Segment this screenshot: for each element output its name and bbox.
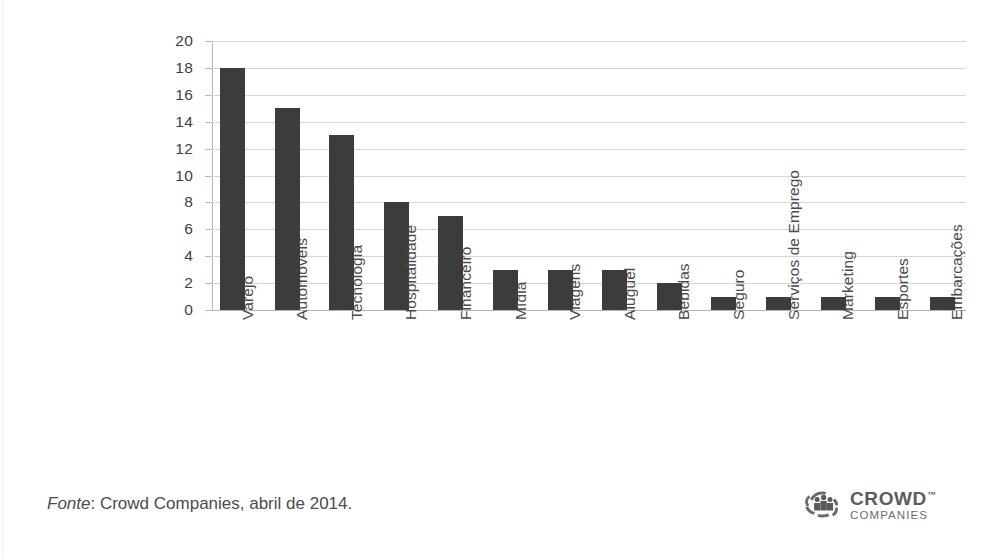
y-tick-label-4: 4: [159, 248, 193, 264]
y-tickmark-2: [205, 283, 212, 284]
y-tick-label-16: 16: [159, 87, 193, 103]
x-tick-label: Automóveis: [294, 238, 310, 320]
gridline-16: [212, 95, 966, 96]
brand-subtitle: COMPANIES: [850, 509, 936, 522]
x-tick-label: Viagens: [567, 264, 583, 320]
y-tickmark-6: [205, 229, 212, 230]
gridline-18: [212, 68, 966, 69]
bar: [220, 68, 245, 310]
y-tick-label-12: 12: [159, 141, 193, 157]
y-tick-label-14: 14: [159, 114, 193, 130]
y-tick-label-2: 2: [159, 275, 193, 291]
y-tickmark-4: [205, 256, 212, 257]
y-tick-label-18: 18: [159, 60, 193, 76]
y-tickmark-18: [205, 68, 212, 69]
gridline-20: [212, 41, 966, 42]
y-tickmark-12: [205, 149, 212, 150]
trademark-symbol: ™: [927, 490, 936, 500]
x-tick-label: Mídia: [513, 282, 529, 320]
x-tick-label: Serviços de Emprego: [786, 170, 802, 320]
gridline-14: [212, 122, 966, 123]
x-tick-label: Marketing: [840, 251, 856, 320]
crowd-companies-logo: CROWD™ COMPANIES: [803, 483, 963, 525]
crowd-swirl-icon: [803, 487, 843, 521]
y-tickmark-8: [205, 202, 212, 203]
x-tick-label: Varejo: [240, 276, 256, 320]
source-note: Fonte: Crowd Companies, abril de 2014.: [47, 494, 352, 514]
y-tick-label-10: 10: [159, 168, 193, 184]
source-text: : Crowd Companies, abril de 2014.: [90, 494, 352, 513]
y-tickmark-20: [205, 41, 212, 42]
brand-wordmark: CROWD™ COMPANIES: [850, 485, 936, 522]
source-label: Fonte: [47, 494, 90, 513]
x-tick-label: Tecnologia: [349, 245, 365, 320]
x-tick-label: Hospitalidade: [403, 225, 419, 320]
chart-figure: 02468101214161820 VarejoAutomóveisTecnol…: [0, 0, 982, 559]
bar-chart: 02468101214161820 VarejoAutomóveisTecnol…: [0, 0, 982, 470]
x-tick-label: Esportes: [895, 258, 911, 320]
brand-name: CROWD™: [850, 485, 936, 509]
y-tickmark-14: [205, 122, 212, 123]
gridline-8: [212, 202, 966, 203]
y-tick-label-6: 6: [159, 221, 193, 237]
y-tickmark-0: [205, 310, 212, 311]
x-tick-label: Aluguel: [622, 268, 638, 320]
y-tick-label-0: 0: [159, 302, 193, 318]
brand-name-text: CROWD: [850, 488, 927, 509]
gridline-12: [212, 149, 966, 150]
y-tick-label-20: 20: [159, 33, 193, 49]
gridline-10: [212, 176, 966, 177]
gridline-6: [212, 229, 966, 230]
x-tick-label: Bebidas: [676, 263, 692, 320]
x-tick-label: Seguro: [731, 269, 747, 320]
x-tick-label: Financeiro: [458, 247, 474, 320]
y-tick-label-8: 8: [159, 194, 193, 210]
y-tickmark-16: [205, 95, 212, 96]
x-tick-label: Embarcações: [949, 224, 965, 320]
y-tickmark-10: [205, 176, 212, 177]
